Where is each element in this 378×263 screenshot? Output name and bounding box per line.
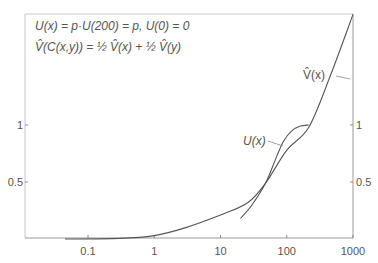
formula-u-definition: U(x) = p·U(200) = p, U(0) = 0: [35, 19, 190, 33]
y-tick-label-left: 1: [17, 119, 23, 131]
v-hat-label: V̂(x): [303, 67, 325, 82]
x-tick-label: 1000: [341, 245, 365, 257]
x-tick-label: 10: [214, 245, 226, 257]
curve-labels: V̂(x)U(x): [243, 67, 350, 148]
u-label: U(x): [243, 134, 266, 148]
x-tick-label: 0.1: [80, 245, 95, 257]
formula-annotations: U(x) = p·U(200) = p, U(0) = 0V̂(C(x,y)) …: [35, 19, 190, 54]
y-tick-label-right: 1: [356, 119, 362, 131]
formula-v-hat-combination: V̂(C(x,y)) = ½ V̂(x) + ½ V̂(y): [35, 39, 181, 54]
v-hat-leader: [336, 76, 350, 79]
x-tick-label: 100: [278, 245, 296, 257]
x-tick-label: 1: [151, 245, 157, 257]
y-tick-label-right: 0.5: [356, 176, 371, 188]
y-tick-label-left: 0.5: [8, 176, 23, 188]
u-leader: [268, 141, 283, 146]
chart: 0.11101001000 10.5 10.5 V̂(x)U(x) U(x) =…: [0, 0, 378, 263]
